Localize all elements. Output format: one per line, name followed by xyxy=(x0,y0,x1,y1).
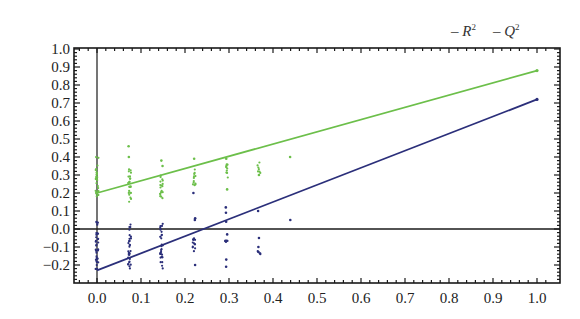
data-point xyxy=(95,259,97,261)
frame-border xyxy=(74,48,560,283)
data-point xyxy=(193,175,195,177)
data-point xyxy=(96,165,98,167)
data-point xyxy=(160,237,162,239)
data-point xyxy=(192,192,195,195)
x-tick-label: 0.1 xyxy=(132,290,151,306)
data-point xyxy=(128,260,130,262)
data-point xyxy=(194,219,197,222)
data-point xyxy=(95,244,97,246)
y-tick-label: 0.1 xyxy=(51,203,70,219)
x-tick-label: 0.5 xyxy=(308,290,327,306)
data-point xyxy=(128,254,130,256)
zero-reference-lines xyxy=(74,48,560,283)
plot-frame xyxy=(74,48,560,283)
data-point xyxy=(160,248,162,250)
y-tick-label: 0.9 xyxy=(51,59,70,75)
data-point xyxy=(95,221,97,223)
data-point xyxy=(258,237,261,240)
data-point xyxy=(128,226,130,228)
data-point xyxy=(95,252,97,254)
data-point xyxy=(96,224,98,226)
x-tick-label: 0.0 xyxy=(88,290,107,306)
data-point xyxy=(159,229,161,231)
data-point xyxy=(95,249,97,251)
data-point xyxy=(161,165,164,168)
data-point xyxy=(226,163,228,165)
data-point xyxy=(127,263,129,265)
line-endpoint xyxy=(535,98,538,101)
y-tick-label: −0.1 xyxy=(43,239,70,255)
data-point xyxy=(95,168,97,170)
data-point xyxy=(225,258,228,261)
y-tick-label: 0.5 xyxy=(51,131,70,147)
data-point xyxy=(258,174,261,177)
data-point xyxy=(162,267,164,269)
data-point xyxy=(129,175,131,177)
y-tick-label: 0.2 xyxy=(51,185,70,201)
data-point xyxy=(194,264,197,267)
x-tick-label: 0.9 xyxy=(484,290,503,306)
data-point xyxy=(128,194,130,196)
data-point xyxy=(127,145,130,148)
data-point xyxy=(97,248,99,250)
regression-line-r2 xyxy=(97,71,537,193)
scatter-points xyxy=(95,145,292,270)
data-point xyxy=(160,231,162,233)
line-endpoint xyxy=(535,69,538,72)
data-point xyxy=(129,240,131,242)
data-point xyxy=(96,264,98,266)
data-point xyxy=(194,183,196,185)
data-point xyxy=(95,174,97,176)
data-point xyxy=(129,250,131,252)
data-point xyxy=(257,170,259,172)
data-point xyxy=(225,206,228,209)
data-point xyxy=(128,170,130,172)
data-point xyxy=(225,166,227,168)
x-tick-label: 0.4 xyxy=(264,290,283,306)
data-point xyxy=(258,161,260,163)
data-point xyxy=(159,225,161,227)
data-point xyxy=(95,255,97,257)
data-point xyxy=(128,156,131,159)
data-point xyxy=(128,201,130,203)
data-point xyxy=(162,223,164,225)
series-points-q2 xyxy=(95,192,292,270)
data-point xyxy=(95,234,97,236)
data-point xyxy=(192,246,194,248)
data-point xyxy=(129,197,131,199)
y-axis-tick-labels: 1.00.90.80.70.60.50.40.30.20.10.0−0.1−0.… xyxy=(43,41,71,273)
data-point xyxy=(129,224,131,226)
data-point xyxy=(128,190,130,192)
data-point xyxy=(225,212,228,215)
data-point xyxy=(159,253,161,255)
data-point xyxy=(160,159,163,162)
regression-lines xyxy=(97,69,539,270)
data-point xyxy=(128,181,130,183)
data-point xyxy=(257,250,259,252)
y-tick-label: 0.3 xyxy=(51,167,70,183)
data-point xyxy=(226,172,228,174)
data-point xyxy=(129,177,131,179)
x-tick-label: 0.2 xyxy=(176,290,195,306)
data-point xyxy=(96,171,98,173)
data-point xyxy=(259,172,261,174)
data-point xyxy=(160,261,162,263)
data-point xyxy=(128,252,130,254)
data-point xyxy=(97,261,99,263)
chart-canvas: – R2– Q2 1.00.90.80.70.60.50.40.30.20.10… xyxy=(0,0,580,319)
y-tick-label: 1.0 xyxy=(51,41,70,57)
data-point xyxy=(159,186,161,188)
x-tick-label: 0.3 xyxy=(220,290,239,306)
data-point xyxy=(95,236,97,238)
data-point xyxy=(162,179,164,181)
data-point xyxy=(127,242,129,244)
data-point xyxy=(193,250,195,252)
y-tick-label: −0.2 xyxy=(43,257,70,273)
data-point xyxy=(256,164,258,166)
data-point xyxy=(192,241,194,243)
legend: – R2– Q2 xyxy=(450,22,520,39)
data-point xyxy=(194,247,196,249)
x-tick-label: 1.0 xyxy=(528,290,547,306)
data-point xyxy=(95,178,97,180)
data-point xyxy=(128,229,130,231)
